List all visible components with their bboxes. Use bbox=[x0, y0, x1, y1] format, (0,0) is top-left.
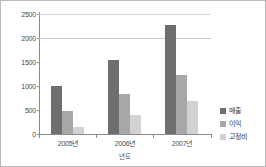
y-tick-label-2000: 2000 bbox=[4, 35, 36, 42]
bar-group-2005 bbox=[39, 14, 97, 134]
legend-item-sales[interactable]: 매출 bbox=[220, 105, 264, 117]
x-axis-title: 년도 bbox=[39, 153, 211, 161]
y-tick-label-1000: 1000 bbox=[4, 83, 36, 90]
legend-label-profit: 이익 bbox=[229, 120, 241, 128]
y-tick-label-500: 500 bbox=[4, 107, 36, 114]
legend-label-fixed-cost: 고정비 bbox=[229, 133, 247, 141]
chart-legend: 매출 이익 고정비 bbox=[220, 105, 264, 144]
y-axis-tick-labels: 2500 2000 1500 1000 500 0 bbox=[1, 1, 36, 167]
bar-2007-fixed-cost[interactable] bbox=[187, 101, 198, 134]
bar-2005-fixed-cost[interactable] bbox=[73, 127, 84, 134]
bar-2005-sales[interactable] bbox=[51, 86, 62, 134]
x-tick-label-2006: 2006년 bbox=[96, 140, 154, 148]
bar-group-2007 bbox=[153, 14, 211, 134]
bar-chart-figure: 2500 2000 1500 1000 500 0 bbox=[0, 0, 266, 167]
x-axis-separator-2 bbox=[153, 134, 154, 138]
x-tick-label-2005: 2005년 bbox=[39, 140, 97, 148]
legend-item-fixed-cost[interactable]: 고정비 bbox=[220, 131, 264, 143]
legend-swatch-sales-icon bbox=[220, 108, 226, 114]
plot-area bbox=[39, 14, 211, 134]
y-tick-label-0: 0 bbox=[4, 131, 36, 138]
x-tick-label-2007: 2007년 bbox=[153, 140, 211, 148]
legend-swatch-fixed-cost-icon bbox=[220, 134, 226, 140]
bar-2005-profit[interactable] bbox=[62, 111, 73, 134]
x-axis-separator-1 bbox=[96, 134, 97, 138]
bar-2006-fixed-cost[interactable] bbox=[130, 115, 141, 134]
y-tick-label-2500: 2500 bbox=[4, 11, 36, 18]
y-tick-label-1500: 1500 bbox=[4, 59, 36, 66]
x-axis-line bbox=[39, 134, 212, 135]
bar-2006-profit[interactable] bbox=[119, 94, 130, 134]
bar-2007-sales[interactable] bbox=[165, 25, 176, 134]
bar-group-2006 bbox=[96, 14, 154, 134]
x-axis-separator-left bbox=[39, 134, 40, 138]
bar-2006-sales[interactable] bbox=[108, 60, 119, 134]
legend-item-profit[interactable]: 이익 bbox=[220, 118, 264, 130]
x-axis-separator-right bbox=[211, 134, 212, 138]
legend-label-sales: 매출 bbox=[229, 107, 241, 115]
legend-swatch-profit-icon bbox=[220, 121, 226, 127]
bar-2007-profit[interactable] bbox=[176, 75, 187, 134]
